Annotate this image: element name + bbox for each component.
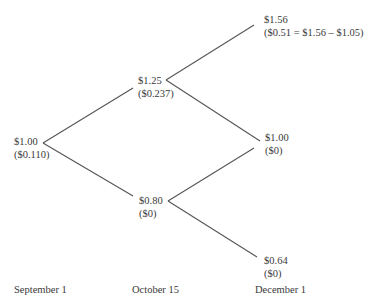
node-root: $1.00 ($0.110) [14, 135, 49, 161]
node-down: $0.80 ($0) [139, 194, 163, 220]
date-label-sept: September 1 [14, 283, 67, 296]
edge-down-updown [168, 148, 254, 201]
node-value: ($0.110) [14, 148, 49, 161]
node-value: ($0.51 = $1.56 – $1.05) [264, 26, 364, 39]
node-up-up: $1.56 ($0.51 = $1.56 – $1.05) [264, 13, 364, 39]
node-price: $1.00 [14, 135, 49, 148]
node-price: $1.25 [138, 74, 174, 87]
edge-up-updown [166, 80, 260, 141]
date-label-oct: October 15 [132, 283, 179, 296]
node-price: $0.64 [264, 254, 288, 267]
tree-branches [0, 0, 375, 305]
node-price: $1.56 [264, 13, 364, 26]
date-label-dec: December 1 [255, 283, 306, 296]
node-price: $1.00 [265, 131, 289, 144]
edge-root-down [43, 143, 133, 196]
node-value: ($0) [264, 267, 288, 280]
node-up: $1.25 ($0.237) [138, 74, 174, 100]
node-value: ($0) [139, 207, 163, 220]
edge-root-up [43, 88, 133, 143]
node-up-down: $1.00 ($0) [265, 131, 289, 157]
node-price: $0.80 [139, 194, 163, 207]
node-down-down: $0.64 ($0) [264, 254, 288, 280]
edge-up-upup [166, 25, 254, 80]
node-value: ($0.237) [138, 87, 174, 100]
node-value: ($0) [265, 144, 289, 157]
edge-down-downdown [168, 201, 257, 257]
